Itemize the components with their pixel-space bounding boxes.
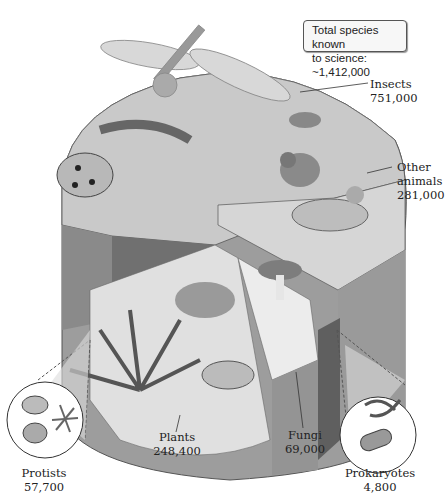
protist-circle bbox=[7, 382, 83, 458]
ladybug-illustration bbox=[57, 153, 113, 197]
shrub-illustration bbox=[175, 282, 235, 318]
label-plants-value: 248,400 bbox=[147, 444, 207, 458]
slice-fungi-wall bbox=[272, 360, 318, 475]
protist-cell-2 bbox=[23, 423, 47, 443]
bulb-plant-illustration bbox=[202, 361, 254, 389]
label-insects-value: 751,000 bbox=[370, 91, 418, 105]
label-insects: Insects 751,000 bbox=[370, 77, 418, 105]
label-prokaryotes: Prokaryotes 4,800 bbox=[342, 466, 418, 494]
label-other-animals-line2: animals bbox=[397, 174, 445, 188]
ant-illustration bbox=[289, 112, 321, 128]
label-other-animals-value: 281,000 bbox=[397, 188, 445, 202]
label-prokaryotes-value: 4,800 bbox=[342, 480, 418, 494]
label-other-animals-line1: Other bbox=[397, 160, 445, 174]
label-plants-name: Plants bbox=[147, 430, 207, 444]
label-protists-name: Protists bbox=[12, 466, 76, 480]
label-protists-value: 57,700 bbox=[12, 480, 76, 494]
callout-line-2: to science: ~1,412,000 bbox=[312, 51, 406, 79]
label-prokaryotes-name: Prokaryotes bbox=[342, 466, 418, 480]
label-fungi-value: 69,000 bbox=[280, 442, 330, 456]
label-protists: Protists 57,700 bbox=[12, 466, 76, 494]
label-fungi-name: Fungi bbox=[280, 428, 330, 442]
label-fungi: Fungi 69,000 bbox=[280, 428, 330, 456]
total-species-callout: Total species known to science: ~1,412,0… bbox=[303, 20, 407, 52]
callout-line-1: Total species known bbox=[312, 23, 406, 51]
label-other-animals: Other animals 281,000 bbox=[397, 160, 445, 202]
protist-cell-1 bbox=[22, 396, 48, 414]
label-insects-name: Insects bbox=[370, 77, 418, 91]
label-plants: Plants 248,400 bbox=[147, 430, 207, 458]
